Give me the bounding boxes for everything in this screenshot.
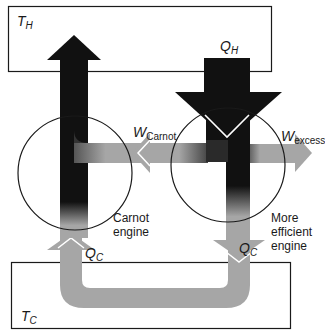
w-excess-label: Wexcess — [281, 128, 325, 146]
efficient-output-flow — [226, 140, 250, 242]
hot-reservoir-label: TH — [17, 13, 33, 31]
efficient-engine-caption: More efficient engine — [271, 211, 312, 253]
w-carnot-shaft-right — [150, 143, 208, 163]
qh-label: QH — [220, 38, 238, 56]
qc-right-label: QC — [239, 240, 257, 258]
qc-left-label: QC — [85, 245, 103, 263]
cold-reservoir-label: TC — [21, 308, 37, 326]
w-carnot-label: WCarnot — [133, 124, 176, 142]
carnot-engine-caption: Carnot engine — [113, 211, 149, 239]
w-excess-shaft — [245, 144, 295, 163]
efficient-left-split — [206, 140, 228, 162]
